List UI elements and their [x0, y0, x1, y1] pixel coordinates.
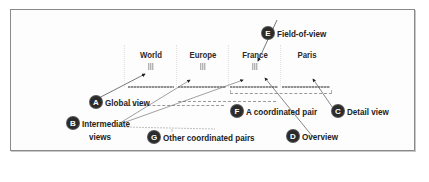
callout-g: G Other coordinated pairs [148, 131, 271, 143]
view-strip-world [128, 86, 174, 88]
callout-b: B Intermediate [67, 117, 139, 129]
callout-e: E Field-of-view [262, 27, 335, 39]
badge-c-icon: C [332, 105, 344, 117]
coordinated-pair-bracket [230, 90, 332, 94]
field-of-view-marker [148, 63, 154, 70]
view-label-world: World [130, 49, 173, 60]
view-panel-world: World [124, 45, 177, 87]
badge-e-icon: E [262, 27, 274, 39]
view-label-paris: Paris [286, 49, 329, 60]
view-panel-paris: Paris [280, 45, 333, 87]
callout-a: A Global view [90, 96, 158, 108]
callout-b-text: Intermediate [82, 118, 130, 129]
view-strip-paris [282, 86, 330, 88]
callout-c-text: Detail view [347, 106, 389, 117]
view-label-europe: Europe [182, 49, 225, 60]
callout-g-text: Other coordinated pairs [163, 132, 255, 143]
badge-d-icon: D [287, 130, 299, 142]
callout-f: F A coordinated pair [231, 105, 330, 117]
view-panel-europe: Europe [176, 45, 229, 87]
view-strip-france [230, 86, 278, 88]
field-of-view-marker [252, 63, 258, 70]
field-of-view-marker [200, 63, 206, 70]
badge-b-icon: B [67, 117, 79, 129]
badge-g-icon: G [148, 131, 160, 143]
view-panel-france: France [228, 45, 281, 87]
view-label-france: France [234, 49, 277, 60]
callout-d: D Overview [287, 130, 344, 142]
callout-e-text: Field-of-view [277, 28, 326, 39]
badge-f-icon: F [231, 105, 243, 117]
callout-a-text: Global view [105, 97, 150, 108]
callout-c: C Detail view [332, 105, 396, 117]
view-strip-europe [178, 86, 226, 88]
callout-b-text-2: views [89, 131, 111, 142]
badge-a-icon: A [90, 96, 102, 108]
callout-f-text: A coordinated pair [246, 106, 317, 117]
callout-d-text: Overview [302, 131, 338, 142]
